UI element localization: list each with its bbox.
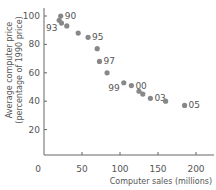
data-point: [85, 35, 90, 40]
point-label: 95: [92, 32, 103, 42]
point-label: 99: [108, 83, 120, 93]
x-tick-label: 150: [149, 164, 166, 174]
data-point: [163, 99, 168, 104]
point-label: 93: [46, 23, 57, 33]
data-point: [121, 80, 126, 85]
data-point: [182, 103, 187, 108]
scatter-chart: 20406080100050100150200Computer sales (m…: [0, 0, 216, 190]
data-point: [148, 96, 153, 101]
data-point: [104, 70, 109, 75]
y-tick-label: 20: [29, 125, 41, 135]
data-point: [140, 92, 145, 97]
x-tick-label: 200: [187, 164, 204, 174]
data-point: [95, 46, 100, 51]
y-tick-label: 60: [29, 68, 41, 78]
y-tick-label: 100: [23, 11, 40, 21]
y-tick-label: 40: [29, 96, 41, 106]
point-label: 97: [103, 56, 114, 66]
x-tick-label: 0: [35, 164, 41, 174]
data-point: [64, 23, 69, 28]
x-axis-label: Computer sales (millions): [110, 177, 212, 186]
point-label: 05: [189, 100, 200, 110]
x-tick-label: 100: [111, 164, 128, 174]
y-axis-label: Average computer price(percentage of 199…: [5, 16, 24, 123]
y-tick-label: 80: [29, 39, 41, 49]
data-point: [97, 59, 102, 64]
point-label: 00: [135, 81, 147, 91]
point-label: 90: [65, 11, 77, 21]
data-point: [76, 30, 81, 35]
data-point: [59, 21, 64, 26]
data-point: [129, 83, 134, 88]
x-tick-label: 50: [76, 164, 88, 174]
